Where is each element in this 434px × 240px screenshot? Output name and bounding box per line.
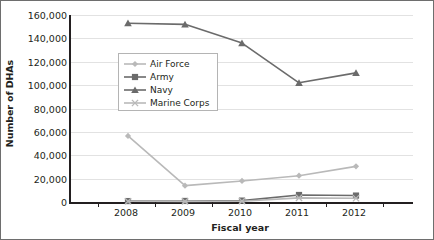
series-air-force bbox=[125, 133, 359, 189]
data-point-marker bbox=[132, 73, 138, 79]
legend-swatch-x-icon bbox=[123, 97, 147, 109]
legend-item-label: Navy bbox=[150, 85, 173, 95]
legend-swatch-square-icon bbox=[123, 71, 147, 83]
y-axis-title: Number of DHAs bbox=[1, 1, 19, 206]
x-axis-tick-labels: 20082009201020112012 bbox=[69, 207, 411, 221]
data-point-marker bbox=[239, 178, 245, 184]
y-tick-label: 100,000 bbox=[21, 80, 67, 91]
legend-item-marine-corps[interactable]: Marine Corps bbox=[119, 96, 217, 109]
legend-swatch-triangle-icon bbox=[123, 84, 147, 96]
y-tick-label: 40,000 bbox=[21, 150, 67, 161]
x-tick-label: 2012 bbox=[342, 207, 366, 218]
x-tick-label: 2010 bbox=[228, 207, 252, 218]
y-tick-label: 0 bbox=[21, 197, 67, 208]
x-tick-label: 2009 bbox=[171, 207, 195, 218]
y-axis-title-text: Number of DHAs bbox=[5, 60, 16, 147]
legend-swatch-diamond-icon bbox=[123, 58, 147, 70]
data-point-marker bbox=[296, 173, 302, 179]
legend: Air ForceArmyNavyMarine Corps bbox=[118, 53, 218, 111]
x-tick-label: 2011 bbox=[285, 207, 309, 218]
y-tick-label: 60,000 bbox=[21, 126, 67, 137]
y-axis-tick-labels: 020,00040,00060,00080,000100,000120,0001… bbox=[19, 1, 67, 240]
y-tick-label: 20,000 bbox=[21, 173, 67, 184]
legend-item-label: Marine Corps bbox=[150, 98, 209, 108]
data-point-marker bbox=[353, 163, 359, 169]
legend-item-label: Air Force bbox=[150, 59, 190, 69]
legend-item-army[interactable]: Army bbox=[119, 70, 217, 83]
x-tick-label: 2008 bbox=[114, 207, 138, 218]
y-tick-label: 160,000 bbox=[21, 10, 67, 21]
x-axis-title: Fiscal year bbox=[69, 222, 411, 233]
legend-item-air-force[interactable]: Air Force bbox=[119, 57, 217, 70]
y-tick-label: 120,000 bbox=[21, 56, 67, 67]
data-point-marker bbox=[132, 60, 138, 66]
y-tick-label: 140,000 bbox=[21, 33, 67, 44]
line-chart: Number of DHAs 020,00040,00060,00080,000… bbox=[0, 0, 434, 240]
y-tick-label: 80,000 bbox=[21, 103, 67, 114]
legend-item-navy[interactable]: Navy bbox=[119, 83, 217, 96]
legend-item-label: Army bbox=[150, 72, 174, 82]
